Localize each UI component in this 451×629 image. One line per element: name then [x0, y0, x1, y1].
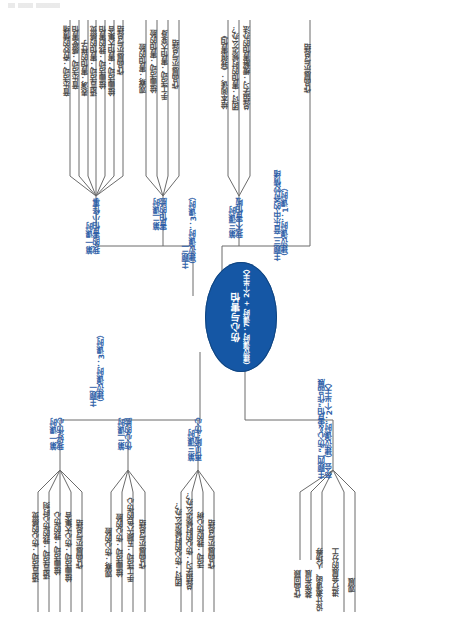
leaf-t1-b3-1[interactable]: 总结学习：伤心的时候怎么办？ — [186, 492, 193, 590]
topic-1-subtitle: （建议课时：3课时） — [97, 330, 106, 407]
topic-label-2[interactable]: 主题二 （建议课时：3课时） — [182, 192, 197, 269]
branch-label-t1-b1[interactable]: 第一课时 我好伤心 — [50, 418, 65, 450]
leaf-t4-b1-2[interactable]: 设计邀请函、人场券 — [316, 548, 323, 611]
leaf-t2-b1-4[interactable]: 绘画活动：我的害怕 — [99, 26, 106, 89]
leaf-t2-b3-2[interactable]: 总结学习：缓解害怕的办法 — [243, 26, 250, 110]
leaf-t2-b1-3[interactable]: 语言活动：害怕的感觉 — [90, 26, 97, 96]
branch-t1-b2-subtitle: 伤心的脸 — [125, 418, 134, 450]
leaf-t2-b1-5[interactable]: 绘画活动：害怕大集合 — [108, 26, 115, 96]
branch-t2-b2-subtitle: 害怕的脸 — [160, 198, 169, 230]
leaf-t1-b3-0[interactable]: 团讨：伤心的时候怎么办？ — [175, 502, 182, 586]
leaf-t2-b3-0[interactable]: 绘本阅读：《我很害怕》 — [221, 32, 228, 109]
leaf-t2-b2-2[interactable]: 手工活动：害怕大变身 — [161, 30, 168, 100]
topic-label-4[interactable]: 主题四 “伤心＆害怕”作品展 布会（建议课时：2个半天） — [318, 378, 333, 479]
center-node-title: 伤心与害怕 — [230, 265, 243, 369]
branch-label-t1-b3[interactable]: 第三课时 再见啦·伤心 — [188, 418, 203, 461]
leaf-t2-b1-0[interactable]: 音乐活动：奇妙的情绪 — [63, 26, 70, 96]
branch-t1-b1-subtitle: 我好伤心 — [57, 418, 66, 450]
leaf-t1-b1-1[interactable]: 语言活动：我的伤心时刻 — [43, 502, 50, 579]
branch-t2-b1-subtitle: 我的害怕小怪事 — [93, 198, 102, 254]
topic-3-subtitle: （建议课时：1课时） — [281, 183, 290, 260]
leaf-t1-b2-3[interactable]: 作品展示与总结 — [139, 520, 146, 569]
center-node-subtitle: （建议课时：7课时 + 2个半天） — [243, 265, 252, 369]
leaf-t2-b1-1[interactable]: 音乐活动：感受害怕 — [72, 26, 79, 89]
topic-2-subtitle: （建议课时：3课时） — [189, 192, 198, 269]
topic-label-1[interactable]: 主题一 （建议课时：3课时） — [90, 330, 105, 407]
center-node-text: 伤心与害怕 （建议课时：7课时 + 2个半天） — [230, 265, 252, 369]
topic-4-subtitle: 布会（建议课时：2个半天） — [325, 378, 334, 479]
leaf-t4-b1-4[interactable]: 观展 — [348, 578, 355, 592]
leaf-t1-b2-1[interactable]: 绘画活动：伤心的脸 — [116, 514, 123, 577]
leaf-t2-b3-1[interactable]: 团讨：害怕的时候怎么办？ — [232, 26, 239, 110]
leaf-t2-b2-0[interactable]: 观察：害怕的脸 — [139, 44, 146, 93]
leaf-t1-b2-0[interactable]: 观察：伤心的脸 — [105, 528, 112, 577]
branch-label-t1-b2[interactable]: 第二课时 伤心的脸 — [118, 418, 133, 450]
topic-label-3[interactable]: 主题三 音乐中的奇妙情绪 （建议课时：1课时） — [274, 170, 289, 261]
leaf-t1-b2-2[interactable]: 手工活动：五颜六色的伤心 — [127, 498, 134, 582]
leaf-t4-b1-0[interactable]: 作品回顾 — [294, 570, 301, 598]
leaf-t1-b1-3[interactable]: 绘画活动：伤心大集合 — [65, 512, 72, 582]
leaf-t4-b1-3[interactable]: 进行会展的分工 — [332, 548, 339, 597]
leaf-t1-b1-0[interactable]: 语言活动：伤心的感觉 — [32, 512, 39, 582]
leaf-t1-b1-4[interactable]: 作品展示与总结 — [76, 520, 83, 569]
branch-label-t2-b1[interactable]: 第一课时 我的害怕小怪事 — [86, 198, 101, 254]
leaf-t1-b1-2[interactable]: 绘画活动：我的伤心 — [54, 512, 61, 575]
leaf-t1-b3-2[interactable]: 活动：我的伤心树 — [197, 512, 204, 568]
leaf-t2-b1-6[interactable]: 作品展示与总结 — [117, 26, 124, 75]
branch-t2-b3-subtitle: 我不害怕啦 — [236, 198, 245, 238]
leaf-t2-b1-2[interactable]: 表演：害怕的样子 — [81, 40, 88, 96]
leaf-t2-b2-3[interactable]: 作品展示与总结 — [172, 40, 179, 89]
center-node[interactable]: 伤心与害怕 （建议课时：7课时 + 2个半天） — [205, 262, 277, 372]
page-header-artifact — [8, 3, 60, 8]
leaf-t3-b1-0[interactable]: 作品展示与总结 — [304, 44, 311, 93]
leaf-t1-b3-3[interactable]: 作品展示与总结 — [208, 520, 215, 569]
branch-label-t2-b2[interactable]: 第二课时 害怕的脸 — [153, 198, 168, 230]
leaf-t2-b2-1[interactable]: 绘画活动：害怕的脸 — [150, 30, 157, 93]
branch-t1-b3-subtitle: 再见啦·伤心 — [195, 418, 204, 461]
leaf-t4-b1-1[interactable]: 装饰布展 — [305, 570, 312, 598]
branch-label-t2-b3[interactable]: 第三课时 我不害怕啦 — [229, 198, 244, 238]
